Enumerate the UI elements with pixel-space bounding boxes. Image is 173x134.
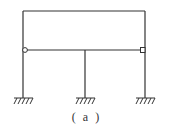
figure-caption: ( a ) bbox=[0, 110, 173, 125]
left-fixed-support-icon bbox=[14, 98, 33, 104]
right-hinge-icon bbox=[141, 48, 146, 53]
middle-fixed-support-icon bbox=[76, 98, 95, 104]
left-hinge-icon bbox=[23, 48, 28, 53]
right-fixed-support-icon bbox=[136, 98, 155, 104]
